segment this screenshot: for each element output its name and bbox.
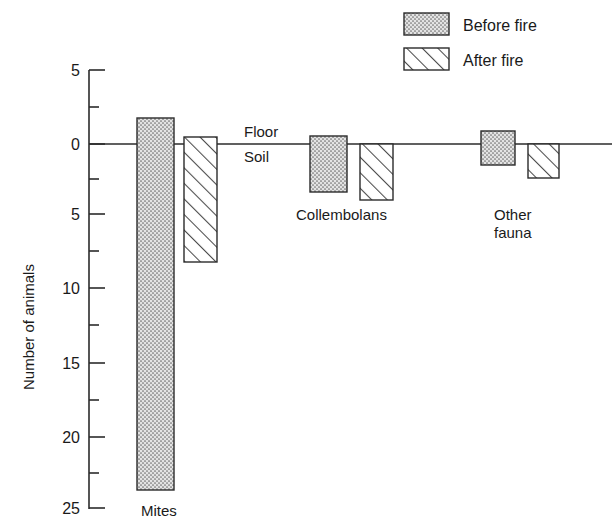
category-label-mites: Mites [141, 502, 177, 519]
y-axis-title: Number of animals [20, 264, 37, 390]
zone-label-soil: Soil [244, 148, 269, 165]
zone-label-floor: Floor [244, 123, 278, 140]
y-tick-label: 10 [62, 280, 80, 297]
y-tick-label: 0 [71, 136, 80, 153]
legend-entry-before-fire: Before fire [404, 13, 537, 35]
legend-entry-after-fire: After fire [404, 48, 524, 70]
category-label-other-fauna-line1: Other [494, 206, 532, 223]
y-tick-label: 20 [62, 429, 80, 446]
category-label-collembolans: Collembolans [296, 206, 387, 223]
bar-mites-before-fire [137, 118, 174, 490]
bar-group-collembolans: Collembolans [296, 136, 393, 223]
bar-chart-svg: Before fire After fire [0, 0, 612, 532]
chart-background [0, 0, 612, 532]
y-tick-label: 5 [71, 206, 80, 223]
legend-label-before-fire: Before fire [463, 17, 537, 34]
bar-other-fauna-before-fire [481, 131, 515, 165]
bar-collembolans-after-fire [360, 144, 393, 200]
y-tick-label: 15 [62, 355, 80, 372]
y-tick-label: 5 [71, 62, 80, 79]
chart-figure: Before fire After fire [0, 0, 612, 532]
bar-mites-after-fire [184, 137, 217, 262]
legend-label-after-fire: After fire [463, 52, 524, 69]
y-tick-label: 25 [62, 500, 80, 517]
legend-swatch-before-fire [404, 13, 449, 35]
category-label-other-fauna-line2: fauna [494, 224, 532, 241]
bar-collembolans-before-fire [310, 136, 347, 192]
legend-swatch-after-fire [404, 48, 449, 70]
bar-other-fauna-after-fire [528, 144, 559, 178]
